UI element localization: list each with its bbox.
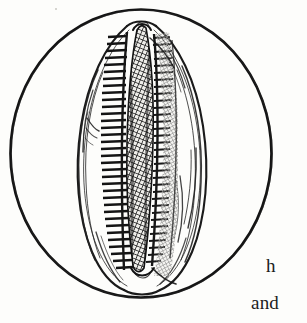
illustration-page: h and <box>0 0 307 323</box>
body-text-line-2: and <box>251 293 279 312</box>
body-text-line-1: h <box>266 256 276 275</box>
paper-speck <box>55 8 57 10</box>
cowrie-shell-plate <box>0 0 307 323</box>
shell-aperture <box>127 26 153 272</box>
